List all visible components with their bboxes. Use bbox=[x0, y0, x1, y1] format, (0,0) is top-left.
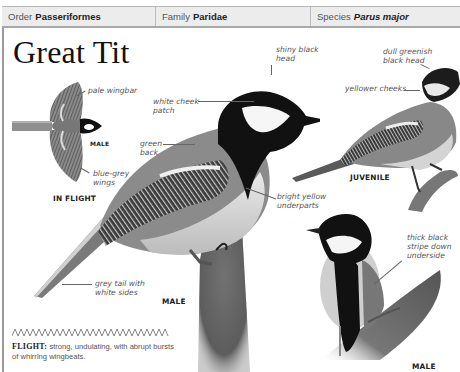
family-cell: Family Paridae bbox=[156, 7, 311, 26]
label-thick-black-stripe: thick black stripe down underside bbox=[407, 233, 455, 260]
species-value: Parus major bbox=[354, 11, 409, 22]
order-cell: Order Passeriformes bbox=[2, 7, 156, 26]
species-cell: Species Parus major bbox=[311, 7, 460, 26]
label-dull-greenish-black-head: dull greenish black head bbox=[383, 47, 439, 65]
label-thick-black-stripe-text: thick black stripe down underside bbox=[407, 233, 452, 260]
flight-heading: FLIGHT: bbox=[12, 342, 47, 351]
order-label: Order bbox=[8, 11, 32, 22]
flight-description: FLIGHT: strong, undulating, with abrupt … bbox=[12, 342, 182, 362]
label-white-cheek-patch-text: white cheek patch bbox=[153, 97, 199, 115]
leader-white-cheek-patch bbox=[198, 101, 254, 102]
label-yellower-cheeks: yellower cheeks bbox=[345, 84, 406, 93]
field-guide-page: Order Passeriformes Family Paridae Speci… bbox=[0, 0, 460, 372]
leader-yellower-cheeks bbox=[404, 90, 420, 91]
leader-grey-tail bbox=[62, 284, 92, 285]
flight-pattern-zigzag-icon bbox=[12, 328, 172, 338]
leader-shiny-black-head bbox=[271, 65, 272, 75]
taxonomy-header: Order Passeriformes Family Paridae Speci… bbox=[2, 6, 460, 28]
juvenile-caption: JUVENILE bbox=[350, 173, 390, 182]
page-left-rule bbox=[2, 6, 4, 372]
family-label: Family bbox=[162, 11, 190, 22]
label-grey-tail-text: grey tail with white sides bbox=[95, 279, 145, 297]
label-green-back: green back bbox=[140, 139, 168, 157]
species-label: Species bbox=[317, 11, 351, 22]
main-male-caption: MALE bbox=[162, 297, 186, 306]
front-male-caption: MALE bbox=[412, 362, 436, 371]
label-white-cheek-patch: white cheek patch bbox=[153, 97, 203, 115]
label-grey-tail-white-sides: grey tail with white sides bbox=[95, 279, 147, 297]
leader-green-back bbox=[163, 144, 195, 145]
label-dull-greenish-black-head-text: dull greenish black head bbox=[383, 47, 432, 65]
label-green-back-text: green back bbox=[140, 139, 162, 157]
order-value: Passeriformes bbox=[35, 11, 100, 22]
family-value: Paridae bbox=[193, 11, 227, 22]
